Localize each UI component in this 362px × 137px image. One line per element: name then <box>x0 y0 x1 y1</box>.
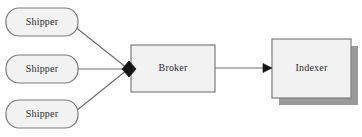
broker-node[interactable] <box>131 45 215 92</box>
edge-shipper3-broker <box>76 70 127 111</box>
diagram-graphics <box>0 0 362 137</box>
shipper-node-3[interactable] <box>6 100 78 128</box>
arrowhead-icon <box>263 64 272 73</box>
diagram-canvas: Shipper Shipper Shipper Broker Indexer <box>0 0 362 137</box>
indexer-node[interactable] <box>272 39 351 98</box>
edge-shipper1-broker <box>74 26 127 68</box>
shipper-node-1[interactable] <box>6 8 78 36</box>
shipper-node-2[interactable] <box>6 55 78 83</box>
